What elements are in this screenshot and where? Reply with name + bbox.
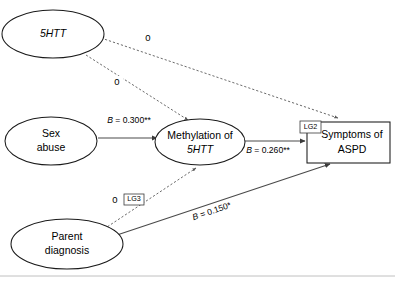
edge-htt-to-aspd: 0: [101, 31, 338, 118]
edge-parent-to-aspd: B = 0.150*: [114, 164, 330, 236]
tag-lg3[interactable]: LG3: [124, 194, 144, 205]
node-sex-abuse-label-line1: Sex: [42, 127, 61, 139]
node-aspd-label-line1: Symptoms of: [321, 128, 382, 140]
node-methylation-label-line1: Methylation of: [167, 129, 232, 141]
path-diagram-figure: 0 0 B = 0.300** B = 0.260**: [0, 0, 395, 286]
tag-lg3-label: LG3: [127, 194, 141, 203]
node-methylation[interactable]: Methylation of 5HTT: [155, 119, 245, 165]
node-sex-abuse[interactable]: Sex abuse: [5, 117, 97, 165]
edge-sexabuse-to-methylation: B = 0.300**: [96, 114, 162, 138]
edge-line-htt-to-methylation: [86, 55, 188, 120]
diagram-canvas: 0 0 B = 0.300** B = 0.260**: [0, 0, 395, 286]
edge-htt-to-methylation: 0: [86, 55, 188, 120]
edge-label-methylation-to-aspd: B = 0.260**: [246, 145, 290, 155]
coef-value: = 0.300**: [113, 115, 152, 125]
edge-label-parent-to-methylation: 0: [112, 194, 117, 205]
edge-label-htt-to-methylation: 0: [114, 76, 119, 87]
node-parent-diagnosis[interactable]: Parent diagnosis: [11, 219, 123, 269]
coef-value: = 0.150*: [196, 200, 233, 221]
node-sex-abuse-label-line2: abuse: [37, 141, 66, 153]
node-parent-diagnosis-label-line2: diagnosis: [45, 244, 89, 256]
tag-lg2[interactable]: LG2: [300, 121, 321, 133]
node-methylation-label-line2: 5HTT: [187, 143, 215, 155]
node-htt[interactable]: 5HTT: [2, 10, 104, 58]
node-htt-label: 5HTT: [40, 27, 68, 39]
edge-line-htt-to-aspd: [101, 38, 338, 118]
node-aspd-label-line2: ASPD: [338, 143, 367, 155]
edge-line-parent-to-aspd: [114, 164, 330, 236]
coef-value: = 0.260**: [252, 145, 291, 155]
node-parent-diagnosis-label-line1: Parent: [52, 230, 83, 242]
tag-lg2-label: LG2: [304, 122, 318, 131]
edge-label-sexabuse-to-methylation: B = 0.300**: [107, 115, 151, 125]
edge-label-htt-to-aspd: 0: [145, 32, 150, 43]
